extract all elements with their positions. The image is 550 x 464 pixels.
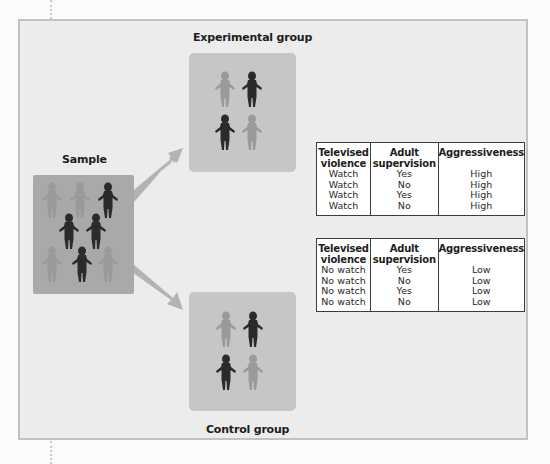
person-icon (241, 71, 263, 111)
person-icon (215, 311, 237, 351)
cell-adult-supervision: Yes (371, 286, 439, 297)
cell-televised-violence: No watch (317, 297, 371, 312)
cell-televised-violence: No watch (317, 265, 371, 276)
person-icon (71, 246, 93, 286)
header-aggressiveness: Aggressiveness (438, 143, 524, 170)
cell-aggressiveness: Low (438, 297, 524, 312)
cell-televised-violence: No watch (317, 286, 371, 297)
person-icon (242, 311, 264, 351)
person-icon (215, 354, 237, 394)
header-televised-violence: Televisedviolence (317, 239, 371, 266)
cell-televised-violence: Watch (317, 201, 371, 216)
control-results-table: Televisedviolence Adultsupervision Aggre… (316, 238, 525, 312)
arrow-to-control-icon (129, 264, 183, 310)
cell-adult-supervision: No (371, 297, 439, 312)
cell-aggressiveness: High (438, 201, 524, 216)
cell-aggressiveness: Low (438, 286, 524, 297)
person-icon (242, 354, 264, 394)
person-icon (241, 114, 263, 154)
table-row: No watch No Low (317, 297, 525, 312)
table-row: Watch No High (317, 201, 525, 216)
table-header-row: Televisedviolence Adultsupervision Aggre… (317, 143, 525, 170)
arrow-to-experimental-icon (129, 148, 183, 202)
table-row: Watch Yes High (317, 169, 525, 180)
person-icon (214, 71, 236, 111)
cell-adult-supervision: Yes (371, 169, 439, 180)
cell-adult-supervision: Yes (371, 265, 439, 276)
cell-adult-supervision: No (371, 201, 439, 216)
cell-aggressiveness: High (438, 169, 524, 180)
cell-televised-violence: Watch (317, 190, 371, 201)
cell-televised-violence: Watch (317, 169, 371, 180)
table-row: No watch Yes Low (317, 265, 525, 276)
experimental-results-table: Televisedviolence Adultsupervision Aggre… (316, 142, 525, 216)
person-icon (41, 246, 63, 286)
header-adult-supervision: Adultsupervision (371, 239, 439, 266)
cell-adult-supervision: Yes (371, 190, 439, 201)
cell-aggressiveness: High (438, 190, 524, 201)
table-row: Watch Yes High (317, 190, 525, 201)
header-adult-supervision: Adultsupervision (371, 143, 439, 170)
header-aggressiveness: Aggressiveness (438, 239, 524, 266)
person-icon (214, 114, 236, 154)
sample-label: Sample (62, 153, 107, 166)
cell-aggressiveness: Low (438, 265, 524, 276)
table-header-row: Televisedviolence Adultsupervision Aggre… (317, 239, 525, 266)
control-group-label: Control group (206, 423, 289, 436)
table-row: No watch Yes Low (317, 286, 525, 297)
header-televised-violence: Televisedviolence (317, 143, 371, 170)
experimental-group-label: Experimental group (193, 31, 312, 44)
person-icon (97, 246, 119, 286)
